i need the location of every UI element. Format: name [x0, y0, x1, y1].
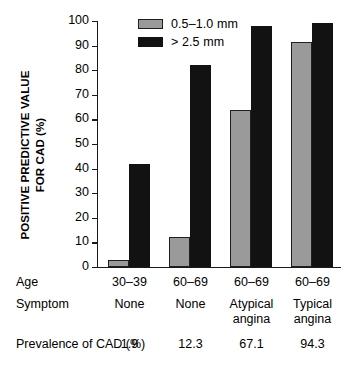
table-cell-text: Typical [282, 297, 343, 312]
table-cell-prevalence: 94.3 [282, 337, 343, 352]
table-cell-age: 30–39 [99, 275, 160, 290]
table-cell-text: 60–69 [160, 275, 221, 290]
row-label-symptom: Symptom [16, 297, 69, 312]
legend-item-light: 0.5–1.0 mm [138, 17, 238, 30]
table-cell-symptom: None [99, 297, 160, 312]
y-axis-tick-label: 0 [55, 259, 89, 274]
y-axis-title-line-2: FOR CAD (%) [33, 118, 48, 193]
table-cell-age: 60–69 [160, 275, 221, 290]
y-axis-tick-mark [92, 267, 97, 268]
legend-swatch-light-icon [138, 19, 163, 29]
y-axis-tick-label: 10 [55, 234, 89, 249]
y-axis-tick-mark [92, 70, 97, 71]
chart-legend: 0.5–1.0 mm > 2.5 mm [138, 17, 238, 48]
table-cell-age: 60–69 [221, 275, 282, 290]
y-axis-title-line-1: POSITIVE PREDICTIVE VALUE [18, 70, 33, 239]
y-axis-tick-label: 80 [55, 62, 89, 77]
y-axis-tick-label: 60 [55, 111, 89, 126]
y-axis-tick-mark [92, 21, 97, 22]
bar [312, 23, 333, 267]
legend-item-dark: > 2.5 mm [138, 35, 238, 48]
table-cell-text: 67.1 [221, 337, 282, 352]
legend-label-dark: > 2.5 mm [171, 35, 224, 49]
table-cell-symptom: Atypicalangina [221, 297, 282, 326]
bar [169, 237, 190, 267]
y-axis-tick-label: 20 [55, 210, 89, 225]
y-axis-tick-mark [92, 193, 97, 194]
table-cell-prevalence: 67.1 [221, 337, 282, 352]
row-label-prevalence-line-1: Prevalence [16, 337, 79, 351]
table-cell-text: angina [221, 312, 282, 327]
bar [129, 164, 150, 267]
y-axis-tick-mark [92, 95, 97, 96]
y-axis-tick-label: 50 [55, 136, 89, 151]
table-cell-text: 1.9 [99, 337, 160, 352]
y-axis-line [97, 21, 98, 268]
bar [190, 65, 211, 267]
table-cell-age: 60–69 [282, 275, 343, 290]
table-cell-text: 60–69 [221, 275, 282, 290]
table-cell-text: angina [282, 312, 343, 327]
plot-area: 1009080706050403020100 [97, 21, 341, 268]
y-axis-tick-label: 40 [55, 161, 89, 176]
y-axis-tick-label: 100 [55, 13, 89, 28]
table-cell-symptom: Typicalangina [282, 297, 343, 326]
y-axis-tick-label: 30 [55, 185, 89, 200]
table-cell-prevalence: 1.9 [99, 337, 160, 352]
table-cell-text: None [160, 297, 221, 312]
table-cell-prevalence: 12.3 [160, 337, 221, 352]
y-axis-title: POSITIVE PREDICTIVE VALUE FOR CAD (%) [16, 55, 50, 255]
legend-swatch-dark-icon [138, 37, 163, 47]
row-label-age: Age [16, 275, 38, 290]
table-cell-text: 12.3 [160, 337, 221, 352]
y-axis-tick-mark [92, 119, 97, 120]
y-axis-tick-mark [92, 242, 97, 243]
table-cell-symptom: None [160, 297, 221, 312]
bar [108, 260, 129, 267]
bar [251, 26, 272, 267]
bar [230, 110, 251, 267]
table-cell-text: None [99, 297, 160, 312]
y-axis-tick-mark [92, 46, 97, 47]
y-axis-tick-label: 70 [55, 87, 89, 102]
x-axis-line [97, 267, 341, 268]
chart-figure: POSITIVE PREDICTIVE VALUE FOR CAD (%) 10… [0, 0, 348, 388]
y-axis-tick-mark [92, 218, 97, 219]
bar [291, 42, 312, 267]
table-cell-text: Atypical [221, 297, 282, 312]
table-cell-text: 60–69 [282, 275, 343, 290]
table-cell-text: 94.3 [282, 337, 343, 352]
y-axis-tick-mark [92, 144, 97, 145]
y-axis-tick-mark [92, 169, 97, 170]
y-axis-tick-label: 90 [55, 38, 89, 53]
legend-label-light: 0.5–1.0 mm [171, 17, 238, 31]
table-cell-text: 30–39 [99, 275, 160, 290]
